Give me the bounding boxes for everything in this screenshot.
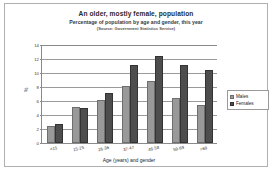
bar-group [122,45,138,143]
chart-frame: An older, mostly female, population Perc… [4,3,268,167]
x-axis-tick-label-1: 15-25 [66,144,91,158]
y-axis-tick-label: 2 [37,127,39,132]
legend-swatch-icon [230,95,234,99]
chart-title: An older, mostly female, population [5,10,267,18]
bar-group [172,45,188,143]
x-axis-tick-label-6: >69 [192,144,217,158]
chart-source: (Source: Government Statistics Service) [5,26,267,32]
y-axis-tick-label: 14 [34,43,39,48]
bar-group [147,45,163,143]
y-axis-tick-label: 0 [37,141,39,146]
x-axis-title: Age (years) and gender [41,157,217,163]
bar-females-1[interactable] [80,108,88,143]
plot-area: 02468101214 [41,45,217,144]
legend-label: Females [236,100,254,107]
bar-males-6[interactable] [197,105,205,143]
bar-group [72,45,88,143]
bar-group [47,45,63,143]
bar-females-0[interactable] [55,124,63,143]
chart-subtitle: Percentage of population by age and gend… [5,19,267,26]
x-axis-tick-label-0: <15 [41,144,66,158]
y-axis-tick-label: 6 [37,99,39,104]
legend-item-males[interactable]: Males [230,93,266,100]
bar-males-5[interactable] [172,98,180,144]
chart-legend: MalesFemales [227,90,269,110]
bar-groups [42,45,217,143]
y-axis-tick-label: 4 [37,113,39,118]
y-axis-tick-label: 12 [34,57,39,62]
bar-females-4[interactable] [155,56,163,144]
chart-titles: An older, mostly female, population Perc… [5,10,267,32]
bar-males-2[interactable] [97,100,105,143]
y-axis-tick-label: 8 [37,85,39,90]
legend-label: Males [236,93,248,100]
y-axis-tick-mark [40,143,42,144]
bar-group [197,45,213,143]
bar-females-5[interactable] [180,65,188,143]
legend-swatch-icon [230,102,234,106]
x-axis-tick-label-3: 37-47 [116,144,141,158]
bar-males-4[interactable] [147,81,155,143]
bar-group [97,45,113,143]
bar-males-3[interactable] [122,86,130,143]
x-axis-tick-label-5: 59-69 [167,144,192,158]
bar-males-1[interactable] [72,107,80,143]
y-axis-tick-label: 10 [34,71,39,76]
bar-females-6[interactable] [205,70,213,143]
legend-item-females[interactable]: Females [230,100,266,107]
x-axis-labels: <1515-2526-3637-4748-5859-69>69 [41,146,217,155]
y-axis-title: % [23,88,29,92]
bar-females-3[interactable] [130,65,138,143]
bar-females-2[interactable] [105,93,113,143]
x-axis-tick-label-4: 48-58 [141,144,166,158]
x-axis-tick-label-2: 26-36 [91,144,116,158]
bar-males-0[interactable] [47,126,55,144]
